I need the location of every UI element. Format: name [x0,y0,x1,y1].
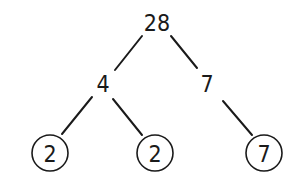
tree-edge-left-to-left-left [62,97,92,134]
factor-tree-diagram: 2847227 [0,0,287,190]
tree-nodes: 2847227 [32,10,282,171]
tree-edge-right-to-right-child [223,101,252,135]
tree-edges [62,36,252,135]
tree-node-left-left: 2 [32,135,68,171]
node-label: 4 [96,71,109,97]
node-label: 7 [257,141,270,167]
tree-node-left-right: 2 [137,135,173,171]
tree-edge-root-to-right [171,36,197,68]
node-label: 7 [200,71,213,97]
tree-edge-root-to-left [115,36,142,70]
tree-node-root: 28 [144,10,170,36]
tree-edge-left-to-left-right [113,99,142,135]
tree-node-left: 4 [96,71,109,97]
tree-node-right: 7 [200,71,213,97]
node-label: 2 [43,141,56,167]
tree-node-right-child: 7 [246,135,282,171]
node-label: 2 [148,141,161,167]
node-label: 28 [144,10,170,36]
